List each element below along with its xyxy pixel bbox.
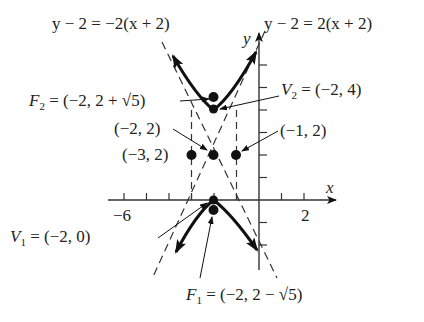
points — [187, 92, 242, 215]
asymptote-left — [162, 42, 277, 278]
vertex-v1-dot — [209, 196, 218, 205]
hyperbola-diagram: y − 2 = −2(x + 2) y − 2 = 2(x + 2) y x −… — [0, 0, 424, 322]
y-axis — [259, 33, 267, 270]
left-point-dot — [187, 150, 197, 160]
left-point-label: (−3, 2) — [122, 145, 168, 164]
vertex-v2-dot — [209, 105, 218, 114]
x-tick-label-2: 2 — [301, 206, 310, 225]
right-point-label: (−1, 2) — [280, 121, 326, 140]
center-label: (−2, 2) — [114, 119, 160, 138]
x-axis — [108, 193, 336, 200]
vertex-v2-label: V2 = (−2, 4) — [281, 80, 361, 101]
y-axis-label: y — [241, 29, 251, 48]
asymptote-left-equation: y − 2 = −2(x + 2) — [52, 14, 170, 33]
focus-f1-dot — [209, 205, 219, 215]
x-axis-label: x — [325, 178, 334, 197]
center-dot — [209, 150, 219, 160]
asymptote-right-equation: y − 2 = 2(x + 2) — [264, 14, 372, 33]
focus-f2-label: F2 = (−2, 2 + √5) — [28, 91, 145, 112]
focus-f1-label: F1 = (−2, 2 − √5) — [185, 285, 302, 306]
x-tick-label-neg6: −6 — [113, 206, 131, 225]
vertex-v1-label: V1 = (−2, 0) — [10, 227, 90, 248]
focus-f2-dot — [209, 92, 219, 102]
right-point-dot — [231, 150, 241, 160]
